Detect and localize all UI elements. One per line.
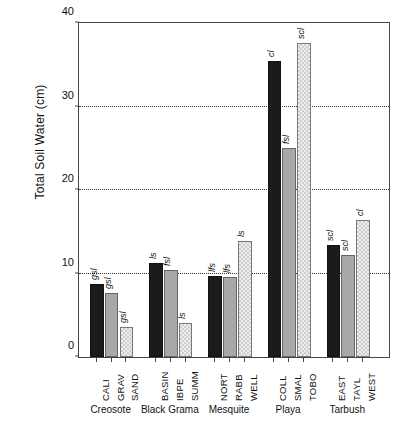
group-label-black-grama: Black Grama xyxy=(141,404,199,415)
soil-type-label: gsl xyxy=(118,311,128,323)
bar-well[interactable] xyxy=(238,241,252,357)
bar-slot: gsl xyxy=(90,23,104,357)
soil-type-label: lfs xyxy=(222,264,232,273)
bar-grav[interactable] xyxy=(105,293,119,357)
soil-type-label: gsl xyxy=(103,278,113,290)
x-tick-label-east: EAST xyxy=(336,375,347,401)
bar-nort[interactable] xyxy=(208,276,222,357)
y-tick-label: 40 xyxy=(40,5,79,17)
y-tick-label: 0 xyxy=(40,339,79,351)
soil-type-label: ls xyxy=(177,312,187,319)
bar-chart: Total Soil Water (cm) 010203040 gslgslgs… xyxy=(0,0,400,432)
x-tick-label-well: WELL xyxy=(248,374,259,401)
x-tick-label-nort: NORT xyxy=(218,373,229,401)
y-tick-label: 10 xyxy=(40,256,79,268)
soil-type-label: lfs xyxy=(207,263,217,272)
soil-type-label: cl xyxy=(266,51,276,58)
bar-cali[interactable] xyxy=(90,284,104,357)
x-tick-label-tobo: TOBO xyxy=(307,373,318,401)
bar-ibpe[interactable] xyxy=(164,270,178,357)
x-axis-labels: CALIGRAVSANDBASINIBPESUMMNORTRABBWELLCOL… xyxy=(78,360,390,406)
group-label-mesquite: Mesquite xyxy=(209,404,250,415)
bar-slot: ls xyxy=(238,23,252,357)
soil-type-label: scl xyxy=(340,240,350,251)
bar-slot: gsl xyxy=(120,23,134,357)
bar-tayl[interactable] xyxy=(341,255,355,357)
x-tick-mark xyxy=(332,358,333,362)
soil-type-label: cl xyxy=(355,210,365,217)
soil-type-label: ls xyxy=(148,252,158,259)
bar-rabb[interactable] xyxy=(223,277,237,357)
bar-slot: gsl xyxy=(105,23,119,357)
x-tick-mark xyxy=(347,358,348,362)
bar-east[interactable] xyxy=(327,245,341,357)
x-tick-mark xyxy=(170,358,171,362)
x-tick-mark xyxy=(244,358,245,362)
group-label-creosote: Creosote xyxy=(90,404,131,415)
bar-slot: ls xyxy=(179,23,193,357)
soil-type-label: fsl xyxy=(162,257,172,266)
x-tick-label-sand: SAND xyxy=(129,374,140,401)
soil-type-label: gsl xyxy=(89,268,99,280)
x-tick-mark xyxy=(288,358,289,362)
group-label-tarbush: Tarbush xyxy=(329,404,365,415)
x-tick-mark xyxy=(214,358,215,362)
x-tick-mark xyxy=(155,358,156,362)
x-tick-mark xyxy=(96,358,97,362)
bar-slot: lfs xyxy=(208,23,222,357)
bar-slot: ls xyxy=(149,23,163,357)
group-labels: CreosoteBlack GramaMesquitePlayaTarbush xyxy=(78,404,390,428)
x-tick-label-smal: SMAL xyxy=(292,374,303,401)
soil-type-label: fsl xyxy=(281,135,291,144)
x-tick-label-cali: CALI xyxy=(100,379,111,401)
x-tick-mark xyxy=(303,358,304,362)
x-tick-label-basin: BASIN xyxy=(159,371,170,401)
bar-smal[interactable] xyxy=(282,148,296,357)
x-tick-label-west: WEST xyxy=(366,373,377,401)
x-tick-mark xyxy=(229,358,230,362)
x-tick-label-coll: COLL xyxy=(277,375,288,401)
y-tick-label: 20 xyxy=(40,172,79,184)
y-tick-label: 30 xyxy=(40,89,79,101)
bar-sand[interactable] xyxy=(120,327,134,357)
bar-slot: scl xyxy=(341,23,355,357)
bar-slot: fsl xyxy=(164,23,178,357)
soil-type-label: ls xyxy=(236,231,246,238)
y-axis-title: Total Soil Water (cm) xyxy=(33,32,47,252)
x-tick-label-grav: GRAV xyxy=(115,374,126,401)
x-tick-mark xyxy=(273,358,274,362)
x-tick-mark xyxy=(125,358,126,362)
group-label-playa: Playa xyxy=(276,404,301,415)
x-tick-mark xyxy=(185,358,186,362)
bar-slot: fsl xyxy=(282,23,296,357)
bar-slot: lfs xyxy=(223,23,237,357)
bar-basin[interactable] xyxy=(149,263,163,357)
x-tick-label-rabb: RABB xyxy=(233,374,244,401)
x-tick-label-summ: SUMM xyxy=(189,371,200,401)
x-tick-label-ibpe: IBPE xyxy=(174,379,185,401)
plot-area: 010203040 gslgslgsllsfsllslfslfslsclfsls… xyxy=(78,22,390,358)
x-tick-label-tayl: TAYL xyxy=(351,378,362,401)
x-tick-mark xyxy=(111,358,112,362)
bar-slot: cl xyxy=(268,23,282,357)
bar-slot: scl xyxy=(327,23,341,357)
soil-type-label: scl xyxy=(296,28,306,39)
bar-coll[interactable] xyxy=(268,61,282,357)
bar-west[interactable] xyxy=(356,220,370,357)
soil-type-label: scl xyxy=(325,230,335,241)
bar-slot: cl xyxy=(356,23,370,357)
bars-layer: gslgslgsllsfsllslfslfslsclfslsclsclsclcl xyxy=(79,23,389,357)
bar-tobo[interactable] xyxy=(297,43,311,357)
bar-summ[interactable] xyxy=(179,323,193,357)
x-tick-mark xyxy=(362,358,363,362)
bar-slot: scl xyxy=(297,23,311,357)
